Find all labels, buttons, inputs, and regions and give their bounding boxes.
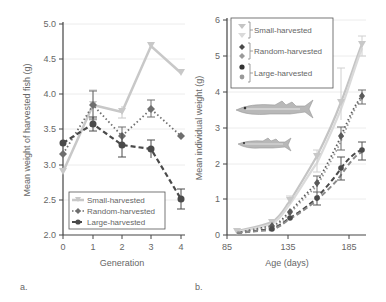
svg-text:3: 3 <box>215 123 220 133</box>
svg-text:3: 3 <box>148 242 153 252</box>
svg-text:5: 5 <box>215 51 220 61</box>
svg-text:2.0: 2.0 <box>43 230 56 240</box>
legend-small-harvested-b: Small-harvested <box>254 26 312 35</box>
small-fish-icon <box>238 138 291 151</box>
panel-letter-a: a. <box>20 282 28 292</box>
svg-text:6: 6 <box>215 15 220 25</box>
legend-random-harvested-a: Random-harvested <box>87 207 155 216</box>
x-ticks-a: 0 1 2 3 4 <box>60 242 183 252</box>
y-ticks-a: 5.0 4.5 4.0 3.5 3.0 2.5 2.0 <box>43 19 56 240</box>
panel-b: 6 5 4 3 2 1 0 85 135 185 Age (days) Mean… <box>193 0 386 302</box>
svg-text:2.5: 2.5 <box>43 195 56 205</box>
legend-large-harvested-b: Large-harvested <box>254 69 312 78</box>
svg-text:1: 1 <box>215 194 220 204</box>
svg-text:2: 2 <box>215 159 220 169</box>
svg-text:135: 135 <box>280 242 295 252</box>
svg-text:4: 4 <box>215 87 220 97</box>
legend-random-harvested-b: Random-harvested <box>254 47 322 56</box>
svg-text:0: 0 <box>60 242 65 252</box>
svg-text:4.0: 4.0 <box>43 89 56 99</box>
panel-a: 5.0 4.5 4.0 3.5 3.0 2.5 2.0 0 1 2 3 4 Ge… <box>0 0 193 302</box>
y-ticks-b: 6 5 4 3 2 1 0 <box>215 15 220 240</box>
large-fish-icon <box>236 100 313 118</box>
x-axis-label-b: Age (days) <box>265 258 309 268</box>
x-axis-label-a: Generation <box>100 258 145 268</box>
svg-text:1: 1 <box>90 242 95 252</box>
svg-text:4.5: 4.5 <box>43 54 56 64</box>
svg-text:2: 2 <box>119 242 124 252</box>
y-axis-label-a: Mean weight of harvested fish (g) <box>22 63 32 196</box>
legend-b: Small-harvested Random-harvested Large-h… <box>231 18 333 88</box>
panel-letter-b: b. <box>195 282 203 292</box>
x-ticks-b: 85 135 185 <box>222 242 357 252</box>
svg-text:4: 4 <box>178 242 183 252</box>
legend-small-harvested-a: Small-harvested <box>87 196 145 205</box>
chart-b: 6 5 4 3 2 1 0 85 135 185 Age (days) Mean… <box>193 0 386 302</box>
svg-text:85: 85 <box>222 242 232 252</box>
legend-a: Small-harvested Random-harvested Large-h… <box>69 192 165 229</box>
svg-text:0: 0 <box>215 230 220 240</box>
svg-text:185: 185 <box>341 242 356 252</box>
y-axis-label-b: Mean individual weight (g) <box>194 76 204 181</box>
svg-text:5.0: 5.0 <box>43 19 56 29</box>
svg-text:3.0: 3.0 <box>43 160 56 170</box>
legend-large-harvested-a: Large-harvested <box>87 218 145 227</box>
svg-text:3.5: 3.5 <box>43 124 56 134</box>
chart-a: 5.0 4.5 4.0 3.5 3.0 2.5 2.0 0 1 2 3 4 Ge… <box>0 0 193 302</box>
